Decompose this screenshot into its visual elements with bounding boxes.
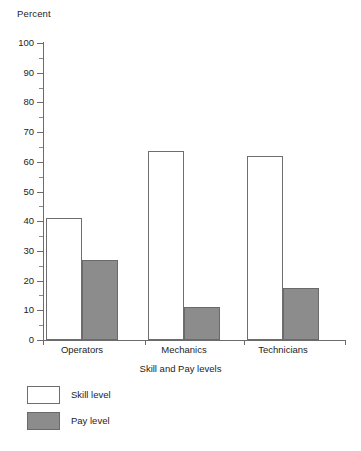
y-tick-minor [39,117,43,118]
y-tick-minor [39,88,43,89]
y-tick-label: 60 [4,157,34,167]
y-tick-label: 50 [4,187,34,197]
y-tick-major [37,102,43,103]
y-tick-minor [39,147,43,148]
bar-operators-skill-level [46,218,82,340]
bar-chart: Percent 0102030405060708090100 Operators… [0,0,361,451]
bar-mechanics-pay-level [184,307,220,340]
bar-technicians-pay-level [283,288,319,340]
y-tick-minor [39,58,43,59]
y-tick-label: 40 [4,216,34,226]
x-tick-label-mechanics: Mechanics [139,344,229,355]
y-tick-label: 70 [4,127,34,137]
legend-label-pay-level: Pay level [71,415,110,426]
legend-swatch-skill-level [27,386,60,404]
x-axis-title: Skill and Pay levels [0,363,361,374]
y-tick-label: 10 [4,305,34,315]
x-axis-line [43,340,346,341]
y-tick-minor [39,236,43,237]
y-tick-minor [39,325,43,326]
legend-label-skill-level: Skill level [71,389,111,400]
y-tick-minor [39,295,43,296]
bar-operators-pay-level [82,260,118,340]
y-tick-major [37,73,43,74]
y-tick-major [37,162,43,163]
y-tick-major [37,251,43,252]
x-tick-label-technicians: Technicians [238,344,328,355]
y-tick-major [37,192,43,193]
bar-mechanics-skill-level [148,151,184,340]
y-tick-label: 0 [4,335,34,345]
y-tick-minor [39,266,43,267]
bar-technicians-skill-level [247,156,283,340]
y-tick-minor [39,206,43,207]
y-tick-label: 90 [4,68,34,78]
y-tick-minor [39,177,43,178]
x-tick [345,340,346,345]
y-tick-label: 100 [4,38,34,48]
y-tick-major [37,43,43,44]
y-tick-label: 30 [4,246,34,256]
legend-swatch-pay-level [27,412,60,430]
y-axis-line [43,42,44,341]
y-tick-major [37,221,43,222]
y-tick-major [37,310,43,311]
y-tick-major [37,132,43,133]
y-tick-label: 80 [4,97,34,107]
y-tick-label: 20 [4,276,34,286]
x-tick-label-operators: Operators [37,344,127,355]
y-axis-tick-labels: 0102030405060708090100 [0,0,34,451]
y-tick-major [37,281,43,282]
